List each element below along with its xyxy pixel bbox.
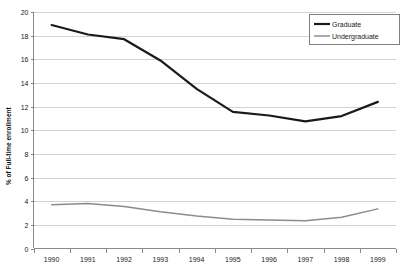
y-tick-label: 0 [25, 246, 29, 253]
x-tick-label: 1992 [116, 256, 132, 263]
y-tick-label: 10 [21, 127, 29, 134]
x-tick-label: 1996 [261, 256, 277, 263]
y-tick-label: 4 [25, 198, 29, 205]
legend-label-undergraduate: Undergraduate [332, 33, 379, 41]
x-tick-label: 1997 [298, 256, 314, 263]
x-tick-label: 1991 [80, 256, 96, 263]
x-tick-label: 1994 [189, 256, 205, 263]
y-axis-title: % of Full-time enrollment [5, 107, 12, 185]
x-tick-label: 1993 [153, 256, 169, 263]
legend-label-graduate: Graduate [332, 21, 361, 28]
chart-canvas: 02468101214161820 1990199119921993199419… [0, 0, 405, 277]
chart-legend: Graduate Undergraduate [310, 15, 400, 45]
y-tick-label: 12 [21, 104, 29, 111]
x-tick-label: 1990 [44, 256, 60, 263]
y-tick-label: 20 [21, 9, 29, 16]
y-tick-label: 14 [21, 80, 29, 87]
line-chart: 02468101214161820 1990199119921993199419… [0, 0, 405, 277]
y-tick-label: 6 [25, 175, 29, 182]
x-tick-label: 1995 [225, 256, 241, 263]
y-tick-label: 8 [25, 151, 29, 158]
x-tick-label: 1998 [334, 256, 350, 263]
legend-box [310, 15, 400, 45]
y-tick-label: 16 [21, 56, 29, 63]
x-tick-label: 1999 [370, 256, 386, 263]
y-tick-label: 2 [25, 222, 29, 229]
y-tick-label: 18 [21, 33, 29, 40]
